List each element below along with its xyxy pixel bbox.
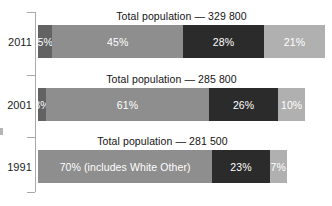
bar-segment: 26% [209,88,278,121]
stacked-bar: 3%61%26%10% [38,88,305,121]
bar-segment-label: 21% [284,36,305,48]
row-label-year: 1991 [2,161,32,173]
bar-segment-label: 70% (includes White Other) [60,161,191,173]
y-axis-line [35,12,36,192]
bar-segment-label: 45% [107,36,128,48]
bar-segment: 5% [38,25,52,58]
bar-segment-label: 3% [38,99,46,111]
y-axis-tick [27,12,35,13]
bar-segment-label: 10% [281,99,302,111]
bar-segment: 7% [270,150,287,183]
bar-segment-label: 5% [38,36,52,48]
stacked-bar: 70% (includes White Other)23%7% [38,150,287,183]
y-axis-tick [27,75,35,76]
bar-segment: 70% (includes White Other) [38,150,212,183]
row-label-year: 2001 [2,99,32,111]
bar-segment: 45% [52,25,182,58]
y-axis-tick [27,192,35,193]
row-total-population-title: Total population — 285 800 [38,73,305,85]
stacked-bar: 5%45%28%21% [38,25,325,58]
bar-segment: 10% [278,88,305,121]
bar-segment: 21% [264,25,325,58]
bar-segment: 3% [38,88,46,121]
bar-segment: 23% [212,150,269,183]
bar-segment-label: 26% [233,99,254,111]
scan-edge-artifact [0,128,3,135]
y-axis-tick [27,137,35,138]
bar-segment-label: 28% [213,36,234,48]
bar-segment: 61% [46,88,209,121]
row-total-population-title: Total population — 281 500 [38,135,287,147]
stacked-bar-chart: 2011Total population — 329 8005%45%28%21… [0,0,332,206]
row-label-year: 2011 [2,36,32,48]
bar-segment: 28% [183,25,264,58]
bar-segment-label: 23% [230,161,251,173]
bar-segment-label: 61% [117,99,138,111]
row-total-population-title: Total population — 329 800 [38,10,325,22]
bar-segment-label: 7% [271,161,286,173]
